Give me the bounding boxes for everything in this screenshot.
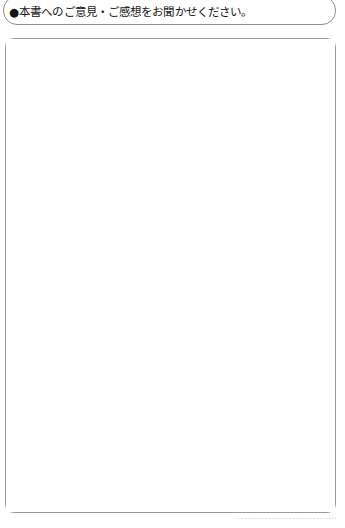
feedback-answer-input[interactable]	[6, 39, 335, 512]
footer-clipped-text: ……………………………	[238, 518, 337, 521]
questionnaire-page: ●本書へのご意見・ご感想をお聞かせください。 ……………………………	[0, 0, 345, 528]
feedback-answer-box[interactable]	[5, 38, 336, 513]
page-footer: ……………………………	[0, 518, 345, 528]
feedback-prompt-label: ●本書へのご意見・ご感想をお聞かせください。	[4, 3, 252, 19]
feedback-prompt-box: ●本書へのご意見・ご感想をお聞かせください。	[3, 0, 336, 25]
